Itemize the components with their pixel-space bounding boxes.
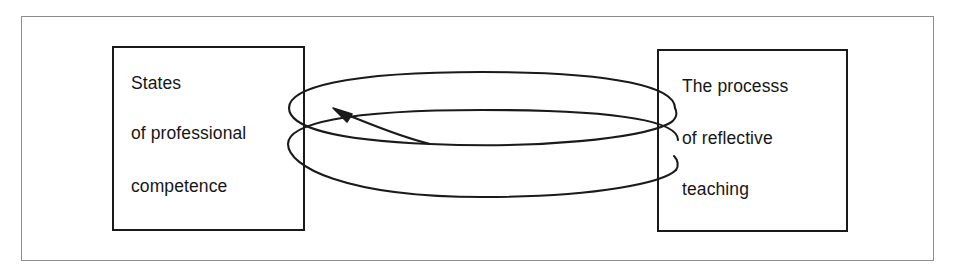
- figure-canvas: States of professional competence The pr…: [0, 0, 955, 279]
- left-box-line-1: States: [131, 75, 181, 93]
- right-box-line-3: teaching: [682, 181, 749, 199]
- left-box-line-3: competence: [131, 178, 227, 196]
- right-box-line-1: The processs: [682, 78, 788, 96]
- right-box-line-2: of reflective: [682, 130, 773, 148]
- left-box-line-2: of professional: [131, 125, 246, 143]
